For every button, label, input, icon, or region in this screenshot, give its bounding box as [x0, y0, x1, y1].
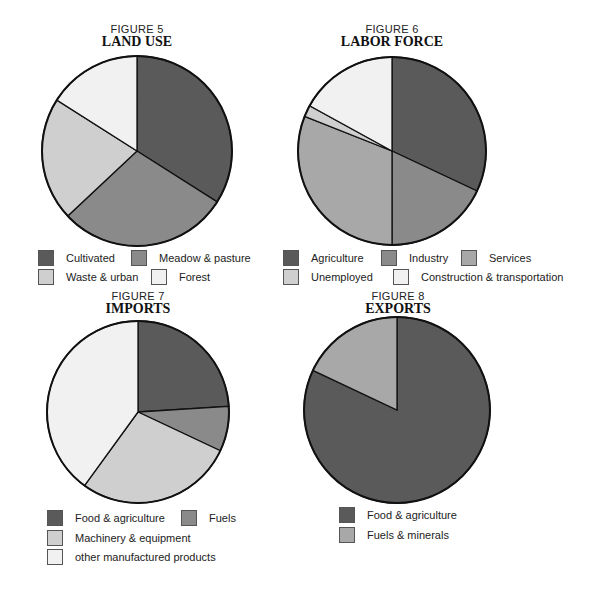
- swatch-medium-light: [339, 527, 355, 543]
- pie-chart-exports: [0, 0, 596, 596]
- legend-item-fuels-minerals: Fuels & minerals: [339, 527, 449, 543]
- swatch-dark: [339, 507, 355, 523]
- legend-label: Food & agriculture: [367, 509, 457, 521]
- legend-item-export-food-agriculture: Food & agriculture: [339, 507, 457, 523]
- legend-label: Fuels & minerals: [367, 529, 449, 541]
